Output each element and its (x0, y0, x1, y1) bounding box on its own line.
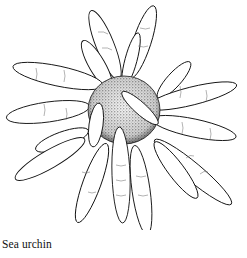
sea-urchin-illustration (0, 0, 247, 230)
caption: Sea urchin (2, 238, 52, 250)
